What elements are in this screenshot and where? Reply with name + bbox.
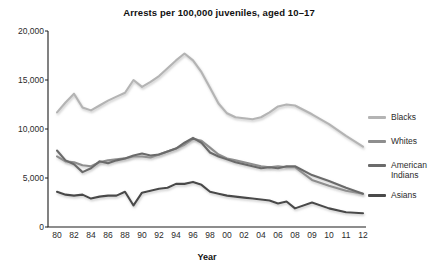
- y-axis-ticks: 05,00010,00015,00020,000: [0, 0, 44, 279]
- x-tick-label: 10: [324, 230, 333, 240]
- x-tick-label: 84: [86, 230, 95, 240]
- x-tick-label: 96: [188, 230, 197, 240]
- x-tick-label: 12: [358, 230, 367, 240]
- legend-item-asians[interactable]: Asians: [368, 190, 417, 200]
- x-tick-label: 88: [120, 230, 129, 240]
- legend-item-american-indians[interactable]: American Indians: [368, 160, 427, 180]
- legend-label: Whites: [391, 136, 417, 146]
- x-tick-label: 98: [205, 230, 214, 240]
- y-tick-label: 10,000: [0, 124, 44, 134]
- x-tick-label: 90: [137, 230, 146, 240]
- x-tick-label: 92: [154, 230, 163, 240]
- x-tick-label: 86: [103, 230, 112, 240]
- x-tick-label: 94: [171, 230, 180, 240]
- chart-container: Arrests per 100,000 juveniles, aged 10–1…: [0, 0, 438, 279]
- legend-swatch-icon: [368, 164, 386, 167]
- legend-label: American Indians: [391, 160, 427, 180]
- legend-label: Asians: [391, 190, 417, 200]
- series-line-asians: [57, 182, 363, 213]
- x-tick-label: 80: [52, 230, 61, 240]
- legend-item-blacks[interactable]: Blacks: [368, 112, 416, 122]
- y-tick-label: 15,000: [0, 75, 44, 85]
- y-tick-label: 0: [0, 222, 44, 232]
- x-tick-label: 02: [239, 230, 248, 240]
- x-tick-label: 82: [69, 230, 78, 240]
- x-tick-label: 00: [222, 230, 231, 240]
- y-tick-label: 5,000: [0, 173, 44, 183]
- legend-item-whites[interactable]: Whites: [368, 136, 417, 146]
- series-line-whites: [57, 139, 363, 194]
- x-tick-label: 06: [273, 230, 282, 240]
- legend-swatch-icon: [368, 140, 386, 143]
- x-tick-label: 11: [342, 230, 351, 240]
- series-line-blacks: [57, 54, 363, 147]
- legend-swatch-icon: [368, 116, 386, 119]
- x-tick-label: 08: [290, 230, 299, 240]
- x-tick-label: 04: [256, 230, 265, 240]
- chart-title: Arrests per 100,000 juveniles, aged 10–1…: [0, 7, 438, 18]
- legend-label: Blacks: [391, 112, 416, 122]
- y-tick-label: 20,000: [0, 26, 44, 36]
- legend-swatch-icon: [368, 194, 386, 197]
- x-axis-label: Year: [48, 252, 366, 262]
- series-line-american-indians: [57, 138, 363, 194]
- x-tick-label: 09: [307, 230, 316, 240]
